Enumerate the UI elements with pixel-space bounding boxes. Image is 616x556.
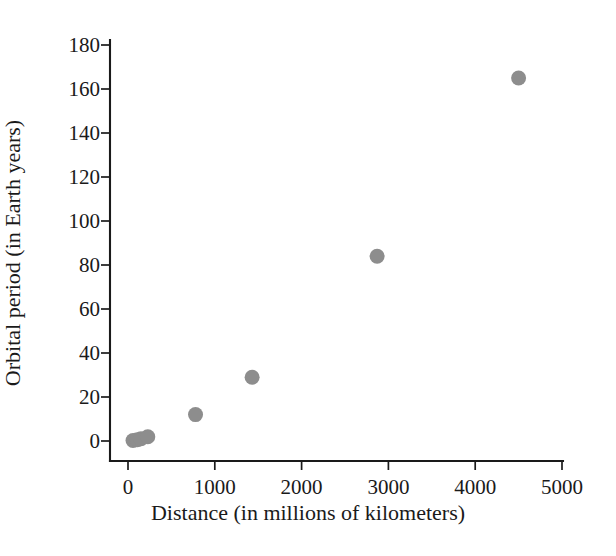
y-axis-tick-label: 160 bbox=[36, 79, 100, 100]
x-axis-tick-label: 0 bbox=[123, 477, 134, 498]
y-axis-tick-label: 20 bbox=[36, 387, 100, 408]
scatter-chart: Distance (in millions of kilometers) Orb… bbox=[0, 0, 616, 556]
y-axis-tick-label: 100 bbox=[36, 211, 100, 232]
x-axis-tick-label: 1000 bbox=[194, 477, 236, 498]
data-point bbox=[140, 429, 155, 444]
data-point bbox=[370, 249, 385, 264]
data-point bbox=[511, 71, 526, 86]
x-axis-tick-label: 4000 bbox=[454, 477, 496, 498]
y-axis-tick-label: 40 bbox=[36, 343, 100, 364]
y-axis-tick-label: 0 bbox=[36, 431, 100, 452]
x-axis-tick-label: 2000 bbox=[281, 477, 323, 498]
y-axis-tick-label: 80 bbox=[36, 255, 100, 276]
data-point bbox=[188, 407, 203, 422]
data-point bbox=[245, 370, 260, 385]
y-axis-title: Orbital period (in Earth years) bbox=[0, 120, 26, 386]
x-axis-title: Distance (in millions of kilometers) bbox=[151, 500, 465, 526]
y-axis-tick-label: 140 bbox=[36, 123, 100, 144]
y-axis-tick-label: 180 bbox=[36, 35, 100, 56]
x-axis-tick-label: 5000 bbox=[541, 477, 583, 498]
y-axis-tick-label: 120 bbox=[36, 167, 100, 188]
y-axis-tick-label: 60 bbox=[36, 299, 100, 320]
x-axis-tick-label: 3000 bbox=[367, 477, 409, 498]
